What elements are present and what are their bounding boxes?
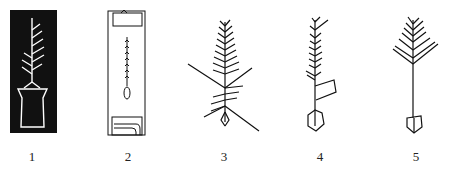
panel-label-4: 4	[310, 149, 330, 165]
panel-label-1: 1	[22, 149, 42, 165]
panel-label-2: 2	[118, 149, 138, 165]
panel-4-tree-with-flag	[306, 17, 336, 131]
panel-label-5: 5	[406, 149, 426, 165]
panel-5-tree-with-base	[393, 17, 438, 133]
panel-3-branching-tree	[188, 20, 259, 131]
panel-label-3: 3	[214, 149, 234, 165]
panel-1-rubbing	[10, 10, 57, 133]
panel-2-narrow-panel	[108, 10, 145, 135]
figure-tree-motifs: 1 2 3 4 5	[0, 0, 454, 176]
